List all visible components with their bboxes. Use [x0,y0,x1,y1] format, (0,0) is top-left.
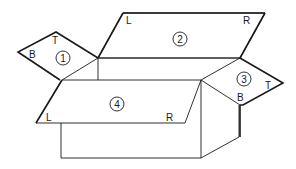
flap-1-label-T: T [52,35,58,46]
flap-1: B T 1 [18,32,98,80]
flap-2: L R 2 [98,13,265,58]
flap-2-label-L: L [126,15,132,26]
side-panel-edge [201,105,239,158]
flap-1-label-B: B [29,49,36,60]
flap-3-number: 3 [241,74,247,85]
flap-4: L R 4 [36,80,201,123]
flap-3-label-B: B [237,92,244,103]
front-panel-edge [61,123,201,158]
flap-2-label-R: R [243,15,250,26]
flap-4-number: 4 [114,99,120,110]
flap-4-label-R: R [166,112,173,123]
flap-2-number: 2 [177,34,183,45]
flap-3-label-T: T [265,80,271,91]
flap-1-number: 1 [60,53,66,64]
flap-3: T B 3 [201,58,283,105]
box-diagram: L R 2 B T 1 T B 3 L R 4 [0,0,296,169]
flap-4-label-L: L [46,112,52,123]
